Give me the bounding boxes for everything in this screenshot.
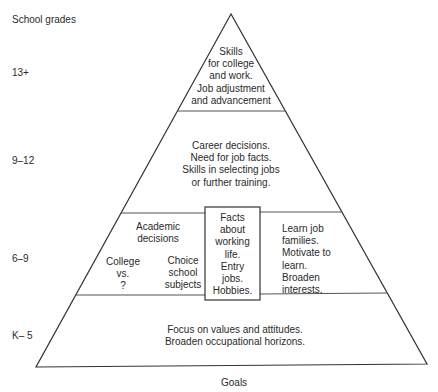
grade-label-6-9: 6–9	[12, 253, 29, 265]
learn-job-families-text: Learn job families. Motivate to learn. B…	[282, 223, 346, 296]
level-k-5-text: Focus on values and attitudes. Broaden o…	[150, 324, 320, 348]
academic-decisions-text: Academic decisions	[123, 221, 193, 245]
grade-label-k-5: K– 5	[12, 330, 33, 342]
choice-school-subjects-text: Choice school subjects	[160, 255, 206, 292]
grade-label-9-12: 9–12	[12, 155, 34, 167]
goals-label: Goals	[221, 377, 247, 389]
axis-title: School grades	[12, 14, 76, 26]
facts-working-life-text: Facts about working life. Entry jobs. Ho…	[205, 212, 260, 297]
college-vs-text: College vs. ?	[103, 256, 143, 293]
grade-label-13-plus: 13+	[12, 67, 29, 79]
level-9-12-text: Career decisions. Need for job facts. Sk…	[166, 140, 296, 189]
level-13-plus-text: Skills for college and work. Job adjustm…	[171, 46, 291, 107]
